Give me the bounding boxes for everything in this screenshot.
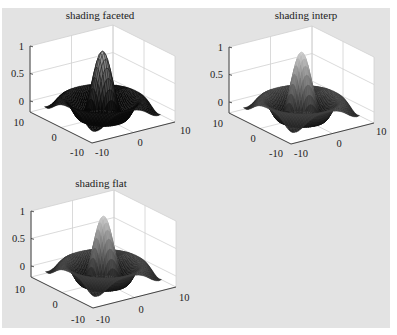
x-tick-label: -10	[294, 148, 308, 159]
x-tick-label: -10	[95, 147, 109, 158]
x-tick-label: 10	[376, 126, 387, 137]
axes-shading-interp[interactable]: shading interp 1 0.5 0 10 0 -10 -10 0 10	[210, 9, 387, 159]
y-tick-label: 0	[250, 133, 255, 144]
x-tick-label: 10	[179, 292, 190, 303]
x-tick-label: 0	[138, 304, 143, 315]
z-tick-label: 1	[20, 206, 25, 217]
y-tick-label: -10	[269, 148, 283, 159]
axes-title: shading flat	[75, 177, 127, 189]
x-tick-label: -10	[96, 314, 110, 325]
y-tick-label: 10	[213, 118, 224, 129]
z-tick-label: 0	[19, 96, 24, 107]
z-tick-label: 1	[19, 41, 24, 52]
axes-title: shading faceted	[66, 9, 135, 21]
y-tick-label: -10	[70, 147, 84, 158]
z-tick-label: 0	[20, 261, 25, 272]
axes-shading-flat[interactable]: shading flat 1 0.5 0 10 0 -10 -10 0 10	[12, 177, 190, 325]
z-tick-label: 0	[218, 97, 223, 108]
z-tick-label: 0.5	[11, 68, 24, 79]
x-tick-label: 10	[180, 125, 191, 136]
z-tick-label: 0.5	[12, 233, 25, 244]
y-tick-label: 0	[51, 132, 56, 143]
y-tick-label: 10	[14, 117, 25, 128]
axes-shading-faceted[interactable]: shading faceted 1 0.5 0 10 0 -10 -10 0 1…	[11, 9, 191, 158]
z-tick-label: 0.5	[210, 69, 223, 80]
y-tick-label: 10	[15, 284, 26, 295]
y-tick-label: 0	[52, 299, 57, 310]
axes-title: shading interp	[275, 9, 338, 21]
x-tick-label: 0	[137, 137, 142, 148]
x-tick-label: 0	[336, 138, 341, 149]
figure-canvas: shading faceted 1 0.5 0 10 0 -10 -10 0 1…	[0, 0, 397, 335]
y-tick-label: -10	[71, 314, 85, 325]
z-tick-label: 1	[218, 42, 223, 53]
